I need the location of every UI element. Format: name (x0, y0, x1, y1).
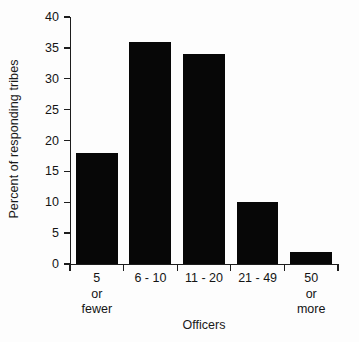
y-axis-tick-label: 20 (0, 134, 59, 148)
bar (237, 202, 279, 264)
bar (183, 54, 225, 264)
y-axis-tick-label: 40 (0, 10, 59, 24)
y-axis-tick (64, 109, 70, 110)
x-axis-tick (284, 265, 285, 271)
plot-area (70, 17, 338, 264)
y-axis-tick (64, 47, 70, 48)
bar (76, 153, 118, 264)
y-axis-tick-label: 5 (0, 226, 59, 240)
y-axis-tick-label: 25 (0, 103, 59, 117)
x-axis-category-label: 21 - 49 (231, 271, 285, 287)
y-axis-tick (64, 232, 70, 233)
y-axis-tick-label: 10 (0, 195, 59, 209)
bar (129, 42, 171, 264)
y-axis-tick (64, 140, 70, 141)
y-axis-tick (64, 78, 70, 79)
x-axis-tick (69, 265, 70, 271)
x-axis-category-label: 6 - 10 (124, 271, 178, 287)
y-axis-tick (64, 16, 70, 17)
y-axis-tick-label: 30 (0, 72, 59, 86)
y-axis-tick (64, 171, 70, 172)
x-axis-title: Officers (70, 318, 338, 332)
bar-chart-figure: Percent of responding tribes Officers 05… (0, 0, 359, 342)
x-axis-category-label: 5 or fewer (70, 271, 124, 318)
x-axis-category-label: 11 - 20 (177, 271, 231, 287)
y-axis-tick (64, 202, 70, 203)
x-axis-category-label: 50 or more (284, 271, 338, 318)
y-axis-tick-label: 0 (0, 257, 59, 271)
y-axis-tick-label: 15 (0, 164, 59, 178)
x-axis-tick (337, 265, 338, 271)
y-axis-tick-label: 35 (0, 41, 59, 55)
x-axis-tick (123, 265, 124, 271)
x-axis-tick (177, 265, 178, 271)
x-axis-tick (230, 265, 231, 271)
bar (290, 252, 332, 264)
